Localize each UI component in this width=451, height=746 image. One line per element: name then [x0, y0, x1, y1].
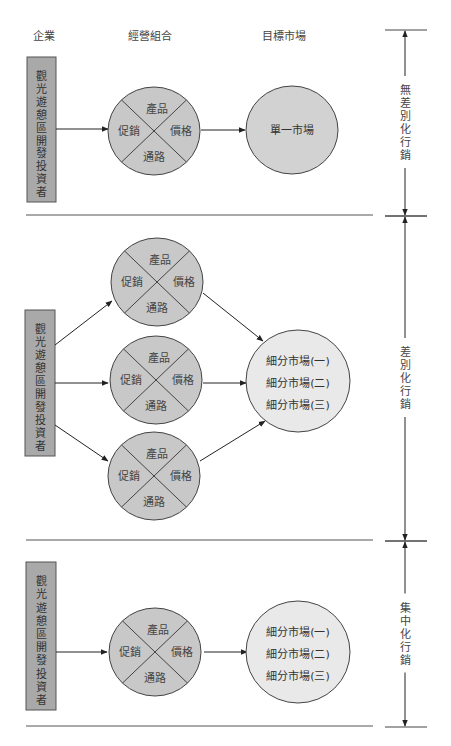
- undifferentiated-label-char: 行: [400, 136, 411, 149]
- company-label-char: 憩: [35, 361, 46, 375]
- company-label-char: 區: [35, 375, 46, 388]
- differentiated-label-char: 別: [400, 359, 411, 372]
- company-label-char: 觀: [36, 575, 47, 588]
- company-label-char: 開: [35, 388, 46, 401]
- concentrated-label-char: 集: [400, 601, 411, 615]
- single-market-label: 單一市場: [270, 123, 314, 137]
- company-label-char: 開: [36, 135, 47, 148]
- segment-market-label: 細分市場(三): [266, 669, 330, 683]
- company-label-char: 投: [36, 159, 47, 173]
- company-label-char: 資: [36, 681, 47, 694]
- arrow-mix-to-market-2c: [200, 421, 265, 461]
- mix-place: 通路: [145, 400, 167, 413]
- mix-product: 產品: [148, 351, 170, 365]
- concentrated-label-char: 中: [400, 615, 411, 628]
- mix-promotion: 促銷: [120, 373, 142, 387]
- company-label-char: 發: [36, 653, 47, 667]
- company-label-char: 光: [35, 335, 46, 349]
- mix-product: 產品: [147, 623, 169, 637]
- differentiated-label-char: 化: [400, 371, 411, 385]
- mix-price: 價格: [170, 124, 192, 138]
- mix-place: 通路: [146, 302, 168, 315]
- header-mix: 經營組合: [128, 29, 172, 43]
- segment-market-label: 細分市場(二): [266, 647, 330, 661]
- undifferentiated-label-char: 化: [400, 122, 411, 136]
- company-label-char: 者: [35, 440, 46, 453]
- mix-promotion: 促銷: [119, 645, 141, 659]
- concentrated-label-char: 化: [400, 627, 411, 641]
- undifferentiated-label-char: 別: [400, 110, 411, 123]
- company-label-char: 發: [35, 400, 46, 414]
- company-label-char: 區: [36, 628, 47, 641]
- mix-promotion: 促銷: [121, 275, 143, 289]
- company-label-char: 憩: [36, 108, 47, 122]
- company-label-char: 觀: [36, 70, 47, 83]
- company-label-char: 者: [36, 694, 47, 707]
- mix-promotion: 促銷: [118, 469, 140, 483]
- header-target: 目標市場: [262, 29, 306, 43]
- company-label-char: 區: [36, 122, 47, 135]
- undifferentiated-label-char: 銷: [400, 148, 411, 162]
- company-label-char: 者: [36, 186, 47, 199]
- differentiated-label-char: 銷: [400, 397, 411, 411]
- company-label-char: 憩: [36, 614, 47, 628]
- company-label-char: 資: [36, 173, 47, 186]
- segment-market-label: 細分市場(二): [266, 376, 330, 390]
- arrow-company-to-mix-2c: [55, 425, 108, 461]
- mix-place: 通路: [144, 672, 166, 685]
- marketing-strategy-diagram: 企業 經營組合 目標市場 觀光遊憩區開發投資者產品促銷價格通路單一市場無差別化行…: [0, 0, 451, 746]
- differentiated-label-char: 差: [400, 345, 411, 359]
- mix-price: 價格: [170, 469, 192, 483]
- mix-price: 價格: [173, 275, 195, 289]
- company-label-char: 資: [35, 427, 46, 440]
- segment-market-label: 細分市場(一): [266, 354, 330, 368]
- mix-place: 通路: [143, 151, 165, 164]
- company-label-char: 遊: [36, 601, 47, 615]
- undifferentiated-label-char: 無: [400, 83, 411, 97]
- company-label-char: 開: [36, 641, 47, 654]
- mix-product: 產品: [149, 253, 171, 267]
- concentrated-label-char: 行: [400, 641, 411, 654]
- mix-promotion: 促銷: [118, 124, 140, 138]
- concentrated-label-char: 銷: [400, 653, 411, 667]
- company-label-char: 投: [36, 667, 47, 681]
- arrow-mix-to-market-2a: [203, 293, 263, 341]
- differentiated-label-char: 行: [400, 385, 411, 398]
- company-label-char: 觀: [35, 323, 46, 336]
- company-label-char: 遊: [36, 95, 47, 109]
- mix-price: 價格: [171, 645, 193, 659]
- mix-place: 通路: [143, 496, 165, 509]
- header-company: 企業: [33, 29, 55, 43]
- company-label-char: 發: [36, 146, 47, 160]
- mix-product: 產品: [146, 447, 168, 461]
- company-label-char: 遊: [35, 348, 46, 362]
- company-label-char: 投: [35, 413, 46, 427]
- arrow-company-to-mix-2a: [55, 301, 112, 345]
- mix-product: 產品: [146, 102, 168, 116]
- undifferentiated-label-char: 差: [400, 96, 411, 110]
- company-label-char: 光: [36, 82, 47, 96]
- segment-market-label: 細分市場(三): [266, 398, 330, 412]
- mix-price: 價格: [172, 373, 194, 387]
- segment-market-label: 細分市場(一): [266, 625, 330, 639]
- company-label-char: 光: [36, 587, 47, 601]
